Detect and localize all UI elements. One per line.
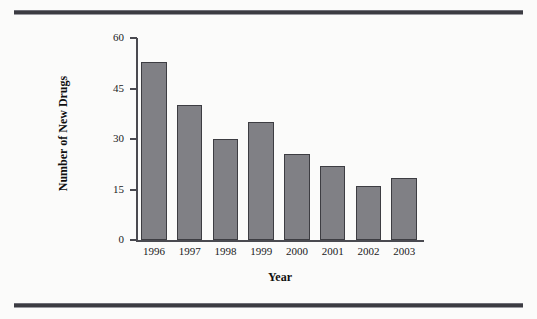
bar bbox=[391, 178, 417, 240]
x-axis-title: Year bbox=[136, 270, 424, 285]
bar bbox=[320, 166, 346, 240]
plot-area bbox=[136, 38, 422, 240]
x-axis-line bbox=[136, 240, 424, 242]
figure-page: 015304560 199619971998199920002001200220… bbox=[0, 0, 537, 319]
bar bbox=[284, 154, 310, 240]
y-axis-tick-label: 15 bbox=[84, 184, 124, 195]
bar bbox=[141, 62, 167, 240]
y-axis-tick-label: 45 bbox=[84, 83, 124, 94]
bar bbox=[248, 122, 274, 240]
bar bbox=[356, 186, 382, 240]
y-axis-tick-label: 30 bbox=[84, 133, 124, 144]
y-axis-tick-label: 60 bbox=[84, 32, 124, 43]
y-axis-tick-label: 0 bbox=[84, 234, 124, 245]
bar bbox=[213, 139, 239, 240]
bar-chart-figure: 015304560 199619971998199920002001200220… bbox=[0, 14, 537, 302]
x-axis-tick-label: 2003 bbox=[381, 245, 427, 257]
y-axis-title: Number of New Drugs bbox=[56, 54, 71, 214]
bottom-horizontal-rule bbox=[14, 303, 523, 308]
bar bbox=[177, 105, 203, 240]
